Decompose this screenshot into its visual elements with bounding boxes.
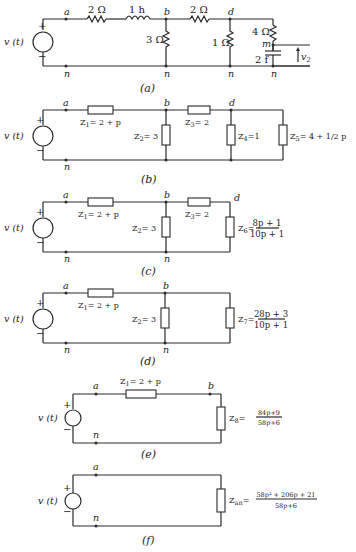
node-b: b <box>164 189 170 200</box>
source-plus: + <box>36 114 44 125</box>
node-a: a <box>63 189 69 200</box>
z2-label: Z2= 3 <box>132 224 156 235</box>
node-b: b <box>164 97 170 108</box>
node-n: n <box>93 512 99 523</box>
node-b: b <box>163 280 169 291</box>
impedance-zan <box>217 489 225 512</box>
caption-b: (b) <box>141 173 157 186</box>
node-a: a <box>64 6 70 17</box>
z8-denominator: 58p+6 <box>258 419 280 427</box>
node-n: n <box>64 253 70 264</box>
impedance-z1 <box>88 198 113 206</box>
source-plus: + <box>63 399 71 410</box>
impedance-z2 <box>162 217 170 237</box>
node-n: n <box>64 161 70 172</box>
z6-numerator: 8p + 1 <box>253 218 282 228</box>
node-b: b <box>164 6 170 17</box>
node-a: a <box>93 380 99 391</box>
source-label: v (t) <box>38 412 58 423</box>
node-a: a <box>63 97 69 108</box>
zan-denominator: 58p+6 <box>275 502 297 510</box>
circuit-f: + − v (t) a n Zan= 58p² + 206p + 21 58p+… <box>38 461 317 547</box>
source-minus: − <box>36 145 44 156</box>
caption-e: (e) <box>141 448 156 461</box>
source-plus: + <box>38 20 46 31</box>
impedance-z4 <box>227 125 235 145</box>
impedance-z6 <box>226 217 234 237</box>
z2-label: Z2= 3 <box>132 315 156 326</box>
r1-label: 2 Ω <box>88 4 106 15</box>
source-minus: − <box>38 51 46 62</box>
source-plus: + <box>63 482 71 493</box>
z1-label: Z1= 2 + p <box>120 377 161 388</box>
node-d: d <box>228 6 234 17</box>
z2-label: Z2= 3 <box>134 132 158 143</box>
node-d: d <box>229 97 235 108</box>
node-n: n <box>164 68 170 79</box>
z7-numerator: 28p + 3 <box>254 309 288 319</box>
node-m: m <box>262 38 271 49</box>
c1-label: 2 f <box>255 54 270 65</box>
impedance-z2 <box>162 125 170 145</box>
node-a: a <box>63 280 69 291</box>
v2-label: v2 <box>301 51 311 64</box>
z6-denominator: 10p + 1 <box>250 229 284 239</box>
source-label: v (t) <box>4 313 24 324</box>
zan-numerator: 58p² + 206p + 21 <box>256 491 315 499</box>
r-shunt-b-label: 3 Ω <box>146 34 164 45</box>
inductor-icon <box>126 16 150 19</box>
z1-label: Z1= 2 + p <box>78 301 119 312</box>
impedance-z8 <box>217 407 225 430</box>
node-n: n <box>228 68 234 79</box>
node-n: n <box>164 253 170 264</box>
resistor-icon <box>163 19 169 66</box>
node-n: n <box>64 344 70 355</box>
source-label: v (t) <box>4 36 24 47</box>
node-a: a <box>93 461 99 472</box>
z7-label: Z7= <box>238 315 254 326</box>
source-label: v (t) <box>4 130 24 141</box>
z3-label: Z3= 2 <box>185 118 209 129</box>
caption-a: (a) <box>140 82 155 95</box>
l1-label: 1 h <box>129 4 146 15</box>
impedance-z1 <box>88 289 113 297</box>
impedance-z2 <box>161 308 169 328</box>
impedance-z1 <box>88 106 113 114</box>
node-b: b <box>208 380 214 391</box>
resistor-icon <box>190 16 209 22</box>
node-d: d <box>234 192 240 203</box>
source-minus: − <box>63 424 71 435</box>
impedance-z5 <box>279 125 287 145</box>
zan-label: Zan= <box>229 496 249 507</box>
caption-d: (d) <box>140 355 156 368</box>
node-n: n <box>93 429 99 440</box>
circuit-a: + − v (t) a b <box>4 4 311 95</box>
z3-label: Z3= 2 <box>185 210 209 221</box>
z1-label: Z1= 2 + p <box>80 118 121 129</box>
z1-label: Z1= 2 + p <box>78 210 119 221</box>
impedance-z7 <box>226 308 234 328</box>
source-minus: − <box>36 328 44 339</box>
impedance-z3 <box>188 106 210 114</box>
node-n: n <box>271 68 277 79</box>
r-series-m-label: 4 Ω <box>252 26 270 37</box>
z8-numerator: 84p+9 <box>258 409 280 417</box>
source-label: v (t) <box>38 495 58 506</box>
node-n: n <box>163 344 169 355</box>
circuit-b: + − v (t) a b d n Z1= 2 + p Z2= 3 Z3= 2 … <box>4 97 346 186</box>
resistor-icon <box>87 16 106 22</box>
z8-label: Z8= <box>229 414 245 425</box>
z4-label: Z4=1 <box>238 132 260 143</box>
circuit-d: + − v (t) a b n n Z1= 2 + p Z2= 3 Z7= 28… <box>4 280 288 368</box>
impedance-z1 <box>126 390 156 398</box>
source-minus: − <box>36 237 44 248</box>
z7-denominator: 10p + 1 <box>254 320 288 330</box>
source-label: v (t) <box>4 222 24 233</box>
circuit-e: + − v (t) a b n Z1= 2 + p Z8= 84p+9 58p+… <box>38 377 282 461</box>
z5-label: Z5= 4 + 1/2 p <box>290 132 346 143</box>
node-n: n <box>64 68 70 79</box>
caption-c: (c) <box>141 265 156 278</box>
caption-f: (f) <box>142 534 155 547</box>
r-shunt-d-label: 1 Ω <box>212 37 230 48</box>
source-plus: + <box>36 206 44 217</box>
